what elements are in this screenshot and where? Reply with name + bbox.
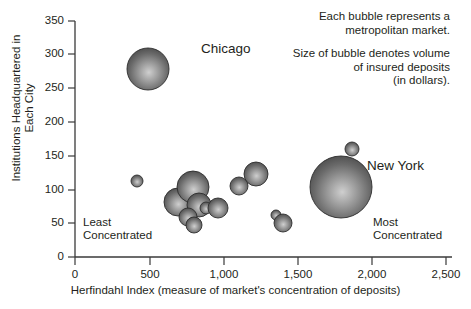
bubble-point (274, 214, 292, 232)
note-most-concentrated: Most Concentrated (373, 216, 442, 242)
x-axis-ticks (75, 257, 446, 265)
note-most-line2: Concentrated (373, 229, 442, 242)
annotation-paragraph-2: Size of bubble denotes volume of insured… (222, 47, 450, 88)
y-axis-ticks (68, 21, 75, 257)
bubble-label-new-york: New York (367, 158, 424, 173)
note-most-line1: Most (373, 216, 442, 229)
y-tick-350: 350 (22, 14, 64, 26)
x-tick-0: 0 (55, 268, 95, 280)
y-tick-0: 0 (22, 250, 64, 262)
bubble-point-chicago (127, 48, 169, 90)
x-tick-1500: 1,500 (278, 268, 318, 280)
y-tick-100: 100 (22, 183, 64, 195)
bubble-point-newyork (310, 156, 372, 218)
annotation-line-4: of insured deposits (222, 61, 450, 75)
x-tick-1000: 1,000 (204, 268, 244, 280)
bubble-point (345, 142, 359, 156)
y-tick-50: 50 (22, 216, 64, 228)
bubble-point (186, 217, 202, 233)
annotation-line-3: Size of bubble denotes volume (222, 47, 450, 61)
annotation-line-1: Each bubble represents a (222, 10, 450, 24)
bubble-point (131, 175, 143, 187)
annotation-paragraph-1: Each bubble represents a metropolitan ma… (222, 10, 450, 37)
x-tick-2500: 2,500 (426, 268, 466, 280)
note-least-line2: Concentrated (83, 229, 152, 242)
x-axis-title: Herfindahl Index (measure of market's co… (0, 284, 471, 296)
annotation-line-2: metropolitan market. (222, 24, 450, 38)
note-least-concentrated: Least Concentrated (83, 216, 152, 242)
bubble-chart: 350 300 250 200 150 100 50 0 0 500 1,000… (0, 0, 471, 309)
bubble-point (244, 162, 268, 186)
x-tick-500: 500 (130, 268, 170, 280)
annotation-line-5: (in dollars). (222, 74, 450, 88)
note-least-line1: Least (83, 216, 152, 229)
bubble-point (208, 198, 228, 218)
y-axis-title: Institutions Headquartered in Each City (10, 33, 36, 183)
chart-annotation: Each bubble represents a metropolitan ma… (222, 10, 450, 88)
x-tick-2000: 2,000 (352, 268, 392, 280)
